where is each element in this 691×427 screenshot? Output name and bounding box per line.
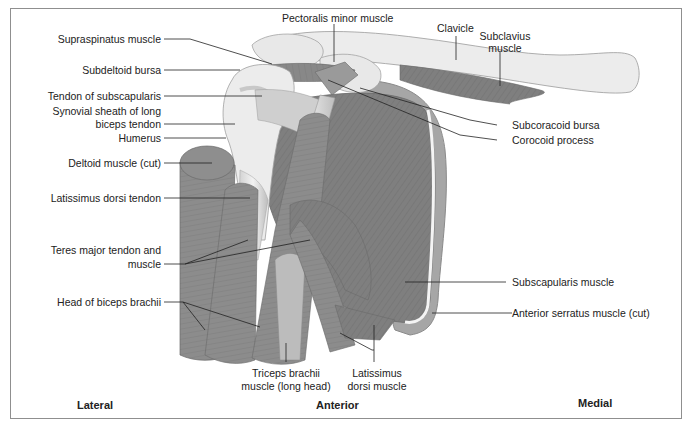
label-latissimus-dorsi-line1: Latissimus xyxy=(342,367,412,379)
label-subcoracoid-bursa: Subcoracoid bursa xyxy=(512,119,600,131)
acromion xyxy=(252,34,323,68)
label-subscapularis-muscle: Subscapularis muscle xyxy=(512,276,614,288)
label-supraspinatus-muscle: Supraspinatus muscle xyxy=(58,33,161,45)
label-anterior-serratus-muscle: Anterior serratus muscle (cut) xyxy=(512,307,650,319)
label-pectoralis-minor-muscle: Pectoralis minor muscle xyxy=(282,12,393,24)
triceps-brachii-long-head xyxy=(275,253,305,360)
orientation-medial: Medial xyxy=(578,397,612,409)
label-teres-major-line2: muscle xyxy=(128,258,161,270)
label-triceps-line2: muscle (long head) xyxy=(236,380,336,392)
orientation-lateral: Lateral xyxy=(77,399,113,411)
label-subclavius-line2: muscle xyxy=(475,42,535,54)
label-synovial-sheath-line2: biceps tendon xyxy=(96,118,161,130)
label-head-of-biceps-brachii: Head of biceps brachii xyxy=(57,296,161,308)
orientation-anterior: Anterior xyxy=(316,399,359,411)
label-corocoid-process: Corocoid process xyxy=(512,134,594,146)
label-subclavius-line1: Subclavius xyxy=(475,30,535,42)
label-teres-major-line1: Teres major tendon and xyxy=(51,244,161,256)
label-triceps-line1: Triceps brachii xyxy=(236,367,336,379)
label-deltoid-muscle-cut: Deltoid muscle (cut) xyxy=(68,157,161,169)
label-humerus: Humerus xyxy=(118,132,161,144)
label-tendon-of-subscapularis: Tendon of subscapularis xyxy=(48,90,161,102)
label-latissimus-dorsi-line2: dorsi muscle xyxy=(342,380,412,392)
label-clavicle: Clavicle xyxy=(437,22,474,34)
label-latissimus-dorsi-tendon: Latissimus dorsi tendon xyxy=(51,192,161,204)
label-subdeltoid-bursa: Subdeltoid bursa xyxy=(82,64,161,76)
label-synovial-sheath-line1: Synovial sheath of long xyxy=(52,105,161,117)
